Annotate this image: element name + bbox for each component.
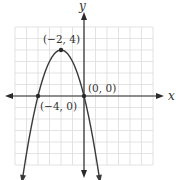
vertex-label: (−2, 4): [43, 33, 80, 45]
x-axis-right-arrow-icon: [156, 93, 164, 99]
y-axis-up-arrow-icon: [81, 12, 87, 20]
left-intercept-point: [36, 94, 40, 98]
coordinate-plane: x y (−2, 4) (−4, 0) (0, 0): [0, 0, 176, 180]
left-intercept-label: (−4, 0): [40, 100, 77, 112]
x-axis-label: x: [168, 89, 175, 103]
x-axis-left-arrow-icon: [5, 93, 13, 99]
origin-point: [82, 94, 86, 98]
curve-right-arrow-icon: [96, 175, 102, 180]
vertex-point: [59, 48, 63, 52]
y-axis-down-arrow-icon: [81, 170, 87, 178]
curve-left-arrow-icon: [20, 175, 26, 180]
y-axis-label: y: [78, 0, 86, 13]
origin-label: (0, 0): [88, 82, 116, 94]
